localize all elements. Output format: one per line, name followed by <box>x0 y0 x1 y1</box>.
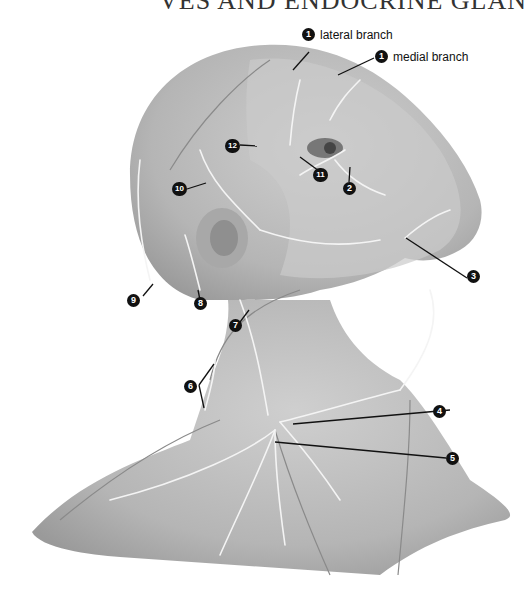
label-6-badge: 6 <box>184 380 197 393</box>
label-3-badge: 3 <box>467 270 480 283</box>
label-medial-branch: medial branch <box>393 50 468 64</box>
label-9-badge: 9 <box>127 294 140 307</box>
label-11-badge: 11 <box>313 168 328 182</box>
head-neck-illustration <box>0 0 527 602</box>
label-10-badge: 10 <box>172 182 187 196</box>
label-8-badge: 8 <box>194 297 207 310</box>
label-4-badge: 4 <box>433 405 446 418</box>
label-5-badge: 5 <box>446 452 459 465</box>
label-lateral-branch: lateral branch <box>320 28 393 42</box>
label-1-lateral-badge: 1 <box>302 28 315 41</box>
label-12-badge: 12 <box>225 139 240 153</box>
label-7-badge: 7 <box>229 319 242 332</box>
label-1-medial-badge: 1 <box>375 50 388 63</box>
label-2-badge: 2 <box>343 182 356 195</box>
